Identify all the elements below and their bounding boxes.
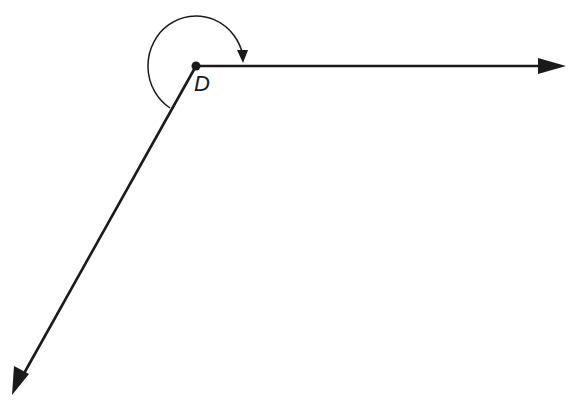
arc-arrowhead-icon — [237, 50, 248, 63]
lower-left-ray — [22, 66, 196, 377]
vertex-label: D — [194, 71, 210, 97]
angle-diagram — [0, 0, 569, 410]
vertex-point-D — [192, 62, 201, 71]
horizontal-ray-arrowhead-icon — [538, 58, 566, 74]
